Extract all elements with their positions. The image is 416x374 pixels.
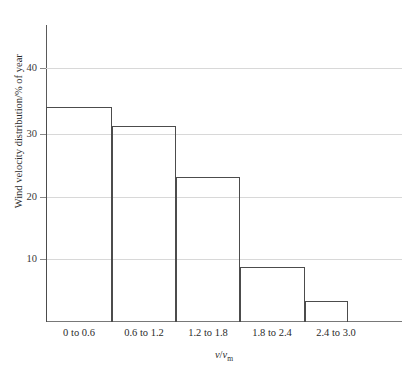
x-tick-label-3: 1.8 to 2.4 (252, 328, 292, 339)
x-axis-title-subscript: m (227, 354, 233, 363)
x-tick-label-1: 0.6 to 1.2 (124, 328, 164, 339)
x-tick-label-4: 2.4 to 3.0 (316, 328, 356, 339)
bar-3 (240, 267, 305, 322)
y-tick-40 (40, 68, 46, 69)
y-tick-label-10: 10 (27, 254, 38, 265)
bar-1 (112, 126, 176, 322)
bar-4 (305, 301, 348, 322)
y-tick-label-20: 20 (27, 192, 38, 203)
x-tick-label-2: 1.2 to 1.8 (188, 328, 228, 339)
gridline-40 (46, 68, 402, 69)
bar-0 (46, 107, 112, 322)
y-axis-title: Wind velocity distribution/% of year (14, 16, 25, 246)
bar-2 (176, 177, 240, 322)
chart-figure: 40 30 20 10 0 to 0.6 0.6 to 1.2 1.2 to 1… (0, 0, 416, 374)
x-tick-label-0: 0 to 0.6 (63, 328, 95, 339)
plot-area: 40 30 20 10 0 to 0.6 0.6 to 1.2 1.2 to 1… (46, 25, 402, 322)
x-axis-title: v/vm (46, 350, 402, 363)
y-tick-label-30: 30 (27, 129, 38, 140)
y-tick-label-40: 40 (27, 63, 38, 74)
